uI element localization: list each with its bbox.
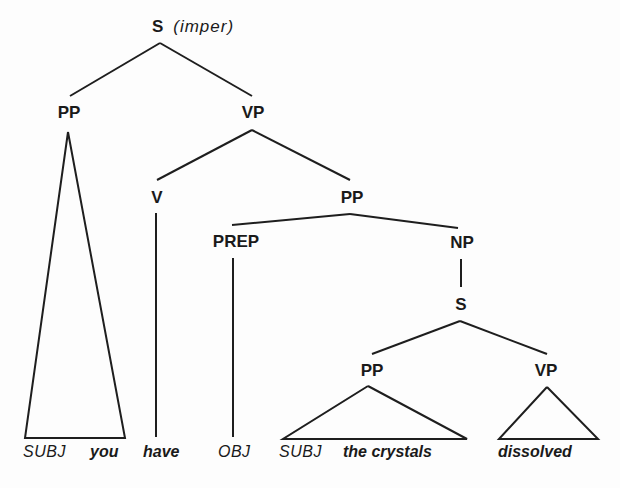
node-pp-object: PP	[341, 189, 364, 206]
node-v: V	[151, 189, 162, 206]
node-prep: PREP	[213, 233, 259, 250]
leaf-dissolved: dissolved	[498, 444, 572, 460]
node-s-root: S(imper)	[152, 18, 234, 35]
leaf-subj-role-2: SUBJ	[279, 444, 322, 460]
leaf-the-crystals: the crystals	[343, 444, 432, 460]
edge-pp-prep	[232, 214, 350, 225]
triangle-pp-subj	[25, 132, 125, 438]
node-pp-subject: PP	[58, 104, 81, 121]
node-s-root-annotation: (imper)	[173, 17, 234, 36]
edge-s-vp-embedded	[460, 321, 547, 354]
leaf-subj-role-1: SUBJ	[23, 444, 66, 460]
tree-edges	[0, 0, 620, 488]
node-vp-main: VP	[242, 104, 265, 121]
node-s-root-label: S	[152, 17, 163, 36]
leaf-have: have	[143, 444, 179, 460]
edge-vp-v	[157, 130, 252, 180]
node-pp-embedded: PP	[361, 362, 384, 379]
syntax-tree-diagram: S(imper) PP VP V PP PREP NP S PP VP SUBJ…	[0, 0, 620, 488]
leaf-obj-role: OBJ	[218, 444, 251, 460]
leaf-you: you	[90, 444, 118, 460]
edge-s-pp	[70, 43, 160, 96]
edge-s-pp-embedded	[372, 321, 460, 354]
edge-pp-np	[350, 214, 458, 228]
node-s-embedded: S	[455, 296, 466, 313]
node-np: NP	[450, 234, 474, 251]
triangle-vp-embedded	[499, 387, 598, 439]
edge-vp-pp	[252, 130, 350, 180]
edge-s-vp	[160, 43, 252, 96]
triangle-pp-embedded	[283, 386, 467, 439]
node-vp-embedded: VP	[535, 362, 558, 379]
